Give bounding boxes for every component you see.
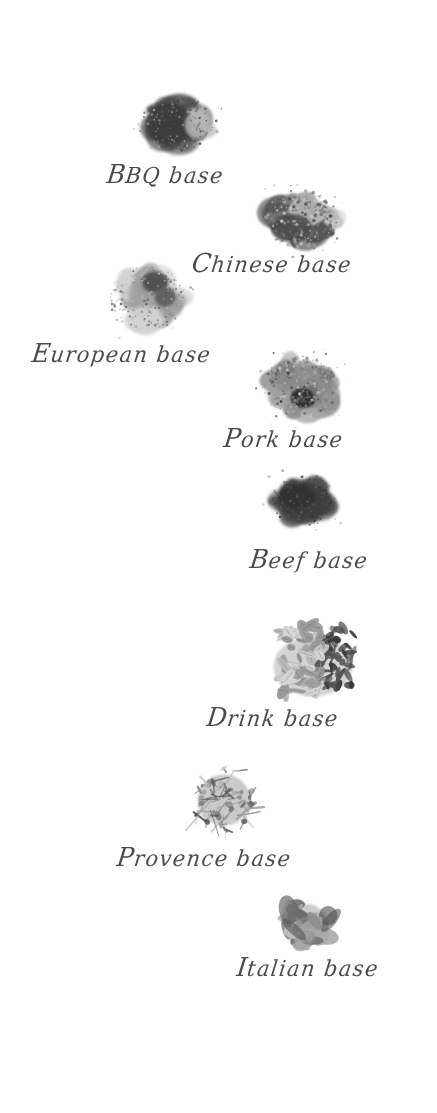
- provence-herb-pile: [179, 754, 269, 846]
- spice-base-label-beef: Beef base: [248, 544, 370, 574]
- pork-spice-pile: [255, 346, 347, 428]
- beef-spice-pile: [262, 467, 346, 535]
- catalog-canvas: BBQ baseChinese baseEuropean basePork ba…: [0, 0, 437, 1113]
- spice-base-label-italian: Italian base: [235, 952, 381, 982]
- spice-base-label-provence: Provence base: [115, 842, 293, 872]
- spice-base-label-drink: Drink base: [205, 702, 341, 732]
- italian-herb-pile: [266, 886, 344, 962]
- spice-base-label-chinese: Chinese base: [190, 248, 354, 278]
- chinese-spice-pile: [255, 180, 347, 258]
- spice-base-label-pork: Pork base: [222, 423, 346, 453]
- spice-base-label-european: European base: [30, 338, 213, 368]
- bbq-spice-pile: [132, 87, 222, 161]
- european-spice-pile: [100, 256, 194, 340]
- drink-spice-pile: [260, 610, 366, 706]
- spice-base-label-bbq: BBQ base: [105, 159, 226, 189]
